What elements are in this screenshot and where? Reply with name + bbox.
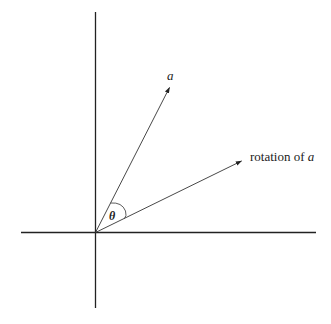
rotation-diagram: a rotation of a θ: [0, 0, 331, 324]
rotation-label-var: a: [308, 149, 315, 164]
rotation-label: rotation of a: [250, 149, 315, 164]
vector-a: [96, 88, 170, 233]
vector-rotation-of-a: [96, 161, 242, 233]
theta-label: θ: [109, 209, 116, 223]
rotation-label-prefix: rotation of: [250, 149, 308, 164]
vector-a-label: a: [167, 68, 174, 83]
